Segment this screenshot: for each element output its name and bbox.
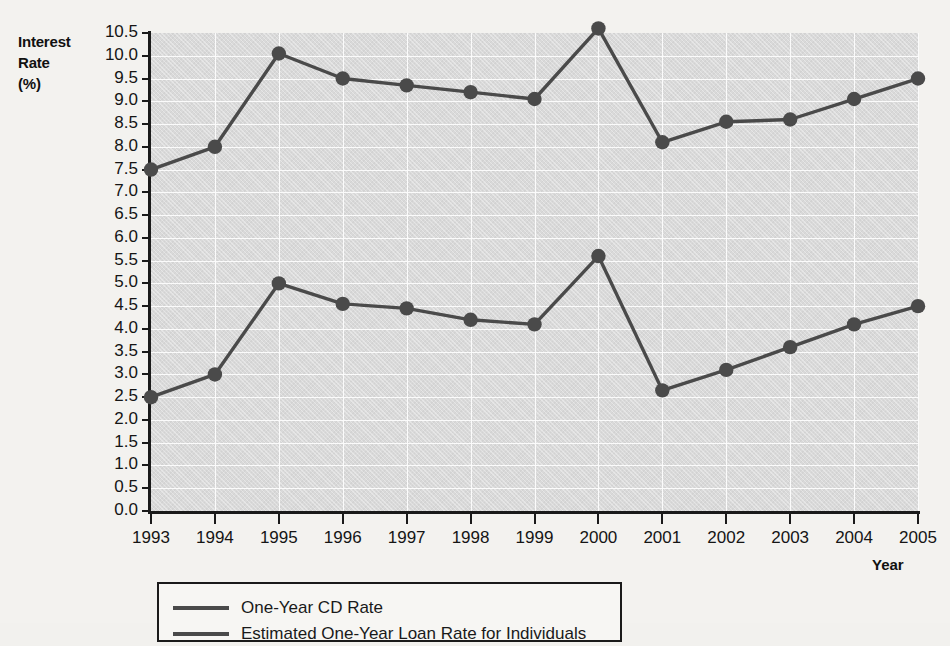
y-axis-tick [142,419,151,421]
gridline-vertical [471,33,472,511]
x-axis-tick [917,514,919,524]
gridline-vertical [854,33,855,511]
y-axis-tick-label: 5.5 [86,250,138,270]
y-axis-tick [142,487,151,489]
legend-line-swatch [173,606,229,610]
x-axis-tick [342,514,344,524]
y-axis-tick-label: 7.5 [86,159,138,179]
y-axis-tick [142,260,151,262]
x-axis-tick-label: 2002 [691,528,761,548]
y-axis-tick-label: 1.5 [86,432,138,452]
x-axis-tick [789,514,791,524]
y-axis-tick [142,214,151,216]
y-axis-tick-label: 4.5 [86,295,138,315]
y-axis-tick-label: 0.5 [86,477,138,497]
y-axis-tick [142,32,151,34]
y-axis-line [148,31,151,513]
y-axis-tick-label: 3.5 [86,341,138,361]
x-axis-tick-label: 1999 [500,528,570,548]
x-axis-tick [853,514,855,524]
y-axis-tick [142,282,151,284]
gridline-vertical [662,33,663,511]
y-axis-tick [142,464,151,466]
y-axis-tick-label: 10.0 [86,45,138,65]
y-axis-tick [142,396,151,398]
y-axis-tick-label: 2.0 [86,409,138,429]
x-axis-tick [725,514,727,524]
y-axis-tick-label: 3.0 [86,363,138,383]
y-axis-tick [142,123,151,125]
x-axis-tick [150,514,152,524]
x-axis-tick-label: 2003 [755,528,825,548]
legend-item: Estimated One-Year Loan Rate for Individ… [173,624,586,646]
y-axis-tick-label: 9.0 [86,90,138,110]
x-axis-tick [278,514,280,524]
y-axis-tick-label: 10.5 [86,22,138,42]
y-axis-tick [142,191,151,193]
legend-item: One-Year CD Rate [173,598,383,620]
x-axis-title: Year [872,556,904,573]
y-axis-tick-labels: 10.510.09.59.08.58.07.57.06.56.05.55.04.… [82,0,138,560]
gridline-vertical [215,33,216,511]
y-axis-tick-label: 9.5 [86,68,138,88]
y-axis-tick-label: 6.5 [86,204,138,224]
x-axis-tick [406,514,408,524]
y-axis-tick [142,100,151,102]
y-axis-tick [142,351,151,353]
gridline-vertical [726,33,727,511]
x-axis-tick [534,514,536,524]
plot-area [151,33,918,511]
y-axis-tick [142,237,151,239]
y-axis-tick [142,169,151,171]
y-axis-tick-label: 8.0 [86,136,138,156]
x-axis-tick [214,514,216,524]
gridline-vertical [343,33,344,511]
x-axis-tick-label: 1996 [308,528,378,548]
y-axis-tick-label: 4.0 [86,318,138,338]
y-axis-tick-label: 5.0 [86,272,138,292]
x-axis-tick-label: 1995 [244,528,314,548]
y-axis-tick [142,442,151,444]
y-axis-tick-label: 6.0 [86,227,138,247]
legend-item-label: Estimated One-Year Loan Rate for Individ… [241,624,586,644]
y-axis-tick-label: 7.0 [86,181,138,201]
x-axis-tick [470,514,472,524]
y-axis-tick [142,510,151,512]
x-axis-tick-label: 2005 [883,528,950,548]
y-axis-tick [142,78,151,80]
y-axis-tick-label: 0.0 [86,500,138,520]
x-axis-tick-label: 2000 [563,528,633,548]
gridline-vertical [279,33,280,511]
y-axis-tick [142,305,151,307]
legend-line-swatch [173,632,229,636]
y-axis-tick [142,55,151,57]
gridline-vertical [407,33,408,511]
x-axis-tick-label: 2004 [819,528,889,548]
x-axis-tick-label: 1994 [180,528,250,548]
y-axis-tick [142,146,151,148]
gridline-vertical [535,33,536,511]
y-axis-tick-label: 1.0 [86,454,138,474]
x-axis-tick [597,514,599,524]
y-axis-tick [142,328,151,330]
x-axis-tick [661,514,663,524]
y-axis-tick-label: 2.5 [86,386,138,406]
legend-item-label: One-Year CD Rate [241,598,383,618]
x-axis-tick-label: 1997 [372,528,442,548]
x-axis-tick-label: 1998 [436,528,506,548]
gridline-vertical [598,33,599,511]
x-axis-tick-label: 1993 [116,528,186,548]
y-axis-tick [142,373,151,375]
gridline-vertical [918,33,919,511]
legend: One-Year CD RateEstimated One-Year Loan … [157,582,622,642]
x-axis-tick-label: 2001 [627,528,697,548]
gridline-vertical [790,33,791,511]
y-axis-tick-label: 8.5 [86,113,138,133]
